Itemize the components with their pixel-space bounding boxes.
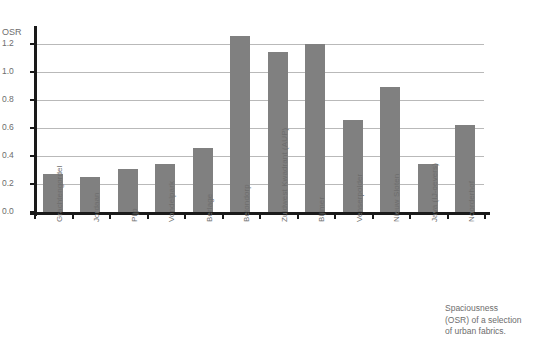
x-axis-tick bbox=[184, 215, 186, 219]
x-axis-tick-label: Zuidwest Kwadrant (AUP) bbox=[281, 128, 289, 222]
y-axis-line bbox=[34, 26, 37, 216]
x-axis-tick-label: Pijp bbox=[131, 208, 139, 222]
gridline bbox=[37, 72, 484, 73]
x-axis-tick bbox=[147, 215, 149, 219]
gridline bbox=[37, 156, 484, 157]
y-axis-tick bbox=[30, 99, 37, 101]
x-axis-tick bbox=[109, 215, 111, 219]
figure-caption: Spaciousness (OSR) of a selection of urb… bbox=[445, 303, 549, 338]
caption-line-2: (OSR) of a selection bbox=[445, 315, 549, 327]
y-axis-tick-label: 0.6 bbox=[2, 123, 14, 132]
caption-line-1: Spaciousness bbox=[445, 303, 549, 315]
y-axis-tick-label: 0.2 bbox=[2, 179, 14, 188]
x-axis-tick-label: Bijlmer bbox=[318, 197, 326, 222]
chart-page: OSR 0.00.20.40.60.81.01.2 Grachtengordel… bbox=[0, 0, 554, 353]
y-axis-tick bbox=[30, 183, 37, 185]
gridline bbox=[37, 44, 484, 45]
bar bbox=[118, 169, 138, 212]
x-axis-tick bbox=[484, 215, 486, 219]
y-axis-tick-label: 1.0 bbox=[2, 67, 14, 76]
gridline bbox=[37, 100, 484, 101]
x-axis-tick bbox=[409, 215, 411, 219]
x-axis-tick bbox=[222, 215, 224, 219]
y-axis-tick bbox=[30, 211, 37, 213]
y-axis-tick bbox=[30, 43, 37, 45]
y-axis-tick-label: 0.8 bbox=[2, 95, 14, 104]
x-axis-tick bbox=[297, 215, 299, 219]
y-axis-tick-label: 0.4 bbox=[2, 151, 14, 160]
y-axis-tick bbox=[30, 155, 37, 157]
x-axis-tick-label: Grachtengordel bbox=[56, 165, 64, 222]
plot-area: 0.00.20.40.60.81.01.2 GrachtengordelJord… bbox=[34, 30, 484, 214]
x-axis-tick-label: Jordaan bbox=[93, 192, 101, 222]
x-axis-tick bbox=[34, 215, 36, 219]
x-axis-tick bbox=[447, 215, 449, 219]
x-axis-tick-label: Java (IJ-oevers) bbox=[431, 163, 439, 222]
x-axis-tick-label: Berlage bbox=[206, 194, 214, 222]
x-axis-tick-label: Nieuw Sloten bbox=[393, 174, 401, 222]
x-axis-tick bbox=[334, 215, 336, 219]
x-axis-tick-label: Vondelpark bbox=[168, 181, 176, 222]
gridline bbox=[37, 128, 484, 129]
x-axis-tick-label: Betondorp bbox=[243, 184, 251, 222]
x-axis-tick bbox=[72, 215, 74, 219]
bar bbox=[305, 44, 325, 212]
y-axis-title: OSR bbox=[2, 27, 22, 37]
caption-line-3: of urban fabrics. bbox=[445, 326, 549, 338]
x-axis-tick-label: Noorderhof bbox=[468, 181, 476, 222]
y-axis-tick bbox=[30, 127, 37, 129]
x-axis-tick bbox=[259, 215, 261, 219]
x-axis-tick bbox=[372, 215, 374, 219]
y-axis-tick-label: 1.2 bbox=[2, 39, 14, 48]
y-axis-tick-label: 0.0 bbox=[2, 207, 14, 216]
x-axis-tick-label: Venserpolder bbox=[356, 174, 364, 222]
y-axis-tick bbox=[30, 71, 37, 73]
